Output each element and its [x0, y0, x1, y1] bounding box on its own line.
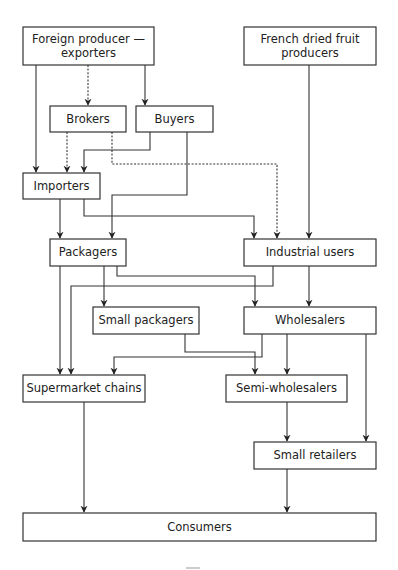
node-label: Small packagers — [99, 313, 194, 327]
node-industrial-users: Industrial users — [244, 239, 376, 266]
node-french-dried-fruit-producers: French dried fruit producers — [244, 27, 376, 65]
node-label: Supermarket chains — [26, 381, 141, 395]
node-label: Small retailers — [274, 448, 357, 462]
edge-wholesalers-to-supermarket — [114, 334, 262, 374]
node-label: Importers — [34, 179, 90, 193]
node-semi-wholesalers: Semi-wholesalers — [226, 375, 347, 402]
node-label: Semi-wholesalers — [236, 381, 337, 395]
page-mark — [186, 567, 200, 569]
node-packagers: Packagers — [50, 239, 126, 266]
node-wholesalers: Wholesalers — [244, 307, 376, 334]
node-label: French dried fruit — [261, 32, 360, 46]
node-label: Buyers — [155, 112, 195, 126]
node-consumers: Consumers — [23, 513, 376, 541]
node-supermarket-chains: Supermarket chains — [23, 375, 145, 402]
node-small-packagers: Small packagers — [93, 307, 199, 334]
edge-importers-to-industrial — [84, 199, 254, 238]
edge-brokers-to-industrial — [112, 132, 277, 238]
node-importers: Importers — [23, 173, 100, 199]
node-label: exporters — [61, 46, 116, 60]
node-label: Wholesalers — [275, 313, 345, 327]
node-brokers: Brokers — [50, 106, 126, 132]
node-label: Packagers — [59, 245, 117, 259]
node-label: Foreign producer — — [32, 32, 145, 46]
edge-small-packagers-to-semi-wholesalers — [185, 334, 255, 374]
node-buyers: Buyers — [136, 106, 213, 132]
distribution-flowchart: Foreign producer — exporters French drie… — [0, 0, 398, 570]
edge-buyers-to-importers — [84, 132, 150, 172]
node-label: Consumers — [167, 520, 232, 534]
node-label: producers — [281, 46, 339, 60]
node-label: Brokers — [66, 112, 109, 126]
node-label: Industrial users — [266, 245, 355, 259]
node-small-retailers: Small retailers — [254, 442, 376, 469]
node-foreign-producer-exporters: Foreign producer — exporters — [23, 27, 154, 65]
